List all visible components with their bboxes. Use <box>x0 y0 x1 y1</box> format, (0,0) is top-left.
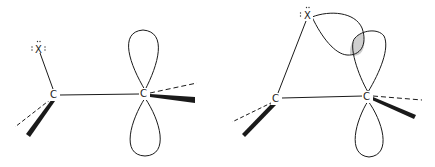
diagram-svg: C C X C C <box>0 0 435 167</box>
right-c2-label: C <box>363 91 370 102</box>
c2-wedge-bond <box>372 97 416 119</box>
left-x-label: X <box>35 44 42 55</box>
orbital-diagram: C C X C C <box>0 0 435 167</box>
left-c2-label: C <box>140 88 147 99</box>
p-orbital-bottom-lobe <box>130 98 160 156</box>
x-c-bond <box>40 53 53 89</box>
p-orbital-top-lobe <box>129 30 159 90</box>
x-c-bond <box>278 21 306 93</box>
left-panel <box>15 30 197 156</box>
c2-dashed-bond <box>150 83 197 93</box>
c1-wedge-bond <box>242 101 277 137</box>
c2-dashed-bond <box>373 96 422 100</box>
c1-wedge-bond <box>26 99 55 137</box>
left-c1-label: C <box>50 89 57 100</box>
right-panel <box>232 13 422 157</box>
left-atoms: C C X <box>31 41 150 101</box>
right-x-label: X <box>304 10 311 21</box>
c-c-bond <box>282 96 363 98</box>
p-orbital-bottom-lobe <box>355 101 383 157</box>
c-c-bond <box>60 94 139 95</box>
c2-wedge-bond <box>150 94 195 103</box>
right-c1-label: C <box>272 93 279 104</box>
